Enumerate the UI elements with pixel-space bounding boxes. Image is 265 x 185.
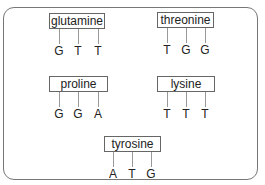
amino-acid-label: threonine <box>157 12 214 28</box>
connector-line <box>186 92 187 107</box>
connector-line <box>78 92 79 107</box>
connector-line <box>167 92 168 107</box>
base-letter: A <box>107 168 119 181</box>
base-letter: T <box>180 108 192 121</box>
connector-line <box>132 152 133 167</box>
connector-line <box>205 28 206 43</box>
base-letter: G <box>199 44 211 57</box>
diagram-frame <box>3 7 258 180</box>
connector-line <box>78 29 79 44</box>
amino-acid-label: lysine <box>157 76 215 92</box>
connector-line <box>98 29 99 44</box>
amino-acid-label: proline <box>49 76 108 92</box>
connector-line <box>59 29 60 44</box>
base-letter: G <box>180 44 192 57</box>
connector-line <box>167 28 168 43</box>
base-letter: T <box>161 108 173 121</box>
base-letter: T <box>199 108 211 121</box>
connector-line <box>151 152 152 167</box>
base-letter: G <box>53 45 65 58</box>
base-letter: T <box>72 45 84 58</box>
base-letter: G <box>145 168 157 181</box>
amino-acid-label: glutamine <box>49 13 105 29</box>
base-letter: T <box>92 45 104 58</box>
amino-acid-label: tyrosine <box>104 136 161 152</box>
base-letter: G <box>72 108 84 121</box>
connector-line <box>113 152 114 167</box>
base-letter: A <box>92 108 104 121</box>
connector-line <box>205 92 206 107</box>
connector-line <box>186 28 187 43</box>
base-letter: T <box>161 44 173 57</box>
base-letter: G <box>53 108 65 121</box>
base-letter: T <box>126 168 138 181</box>
connector-line <box>59 92 60 107</box>
connector-line <box>98 92 99 107</box>
